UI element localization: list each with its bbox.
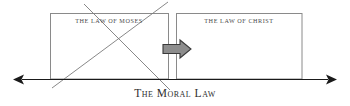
diagram-canvas: The Law of Moses The Law of Christ The M…	[0, 0, 350, 106]
box-label-law-of-christ: The Law of Christ	[176, 17, 302, 24]
strikeout-line-ascending	[52, 2, 168, 88]
diagram-caption: The Moral Law	[0, 87, 350, 99]
box-label-law-of-moses: The Law of Moses	[50, 17, 168, 24]
